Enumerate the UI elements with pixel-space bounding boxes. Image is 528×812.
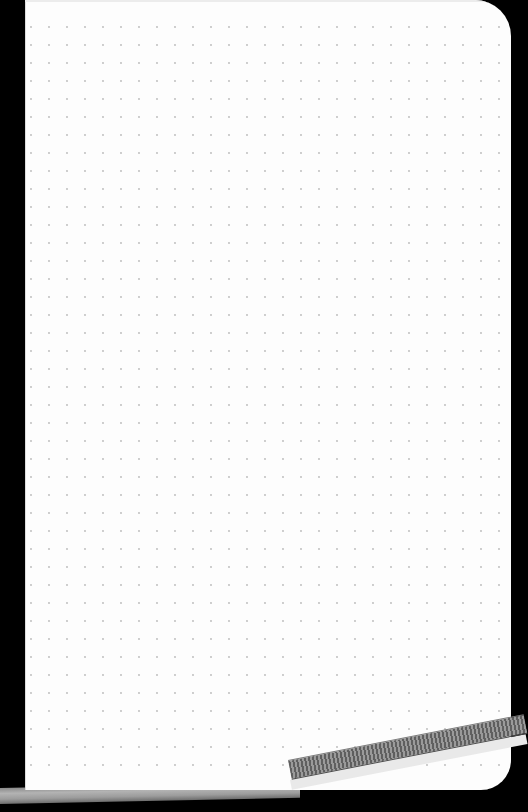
dot-grid bbox=[25, 0, 511, 790]
notebook-page bbox=[25, 0, 511, 790]
